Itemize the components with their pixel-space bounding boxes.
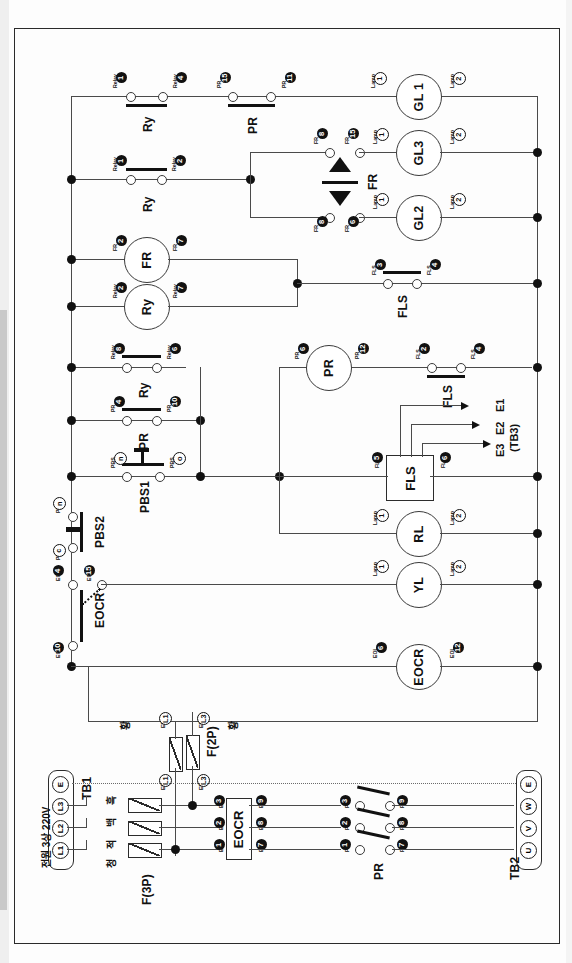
ry-coil-lead-in bbox=[71, 306, 125, 307]
tb2-terminal-v[interactable]: V bbox=[520, 820, 537, 837]
eocr-coil-return bbox=[440, 666, 538, 667]
terminal-number: 2 bbox=[116, 282, 127, 293]
fuse-2p-right bbox=[186, 735, 200, 770]
terminal-number: 12 bbox=[358, 343, 369, 354]
contact-terminal bbox=[325, 148, 335, 158]
terminal-number: 15 bbox=[348, 128, 359, 139]
fuse-3p-label: F(3P) bbox=[140, 874, 154, 905]
seal-in-tie-vertical bbox=[200, 367, 201, 480]
fuse-2p-label: F(2P) bbox=[205, 726, 219, 757]
fr-flicker-label: FR bbox=[366, 174, 380, 190]
rl-branch-vertical bbox=[279, 476, 280, 534]
terminal-number: 2 bbox=[175, 155, 186, 166]
electrode-label-e3: E3 bbox=[494, 444, 506, 457]
ctrl-feed-left-top bbox=[175, 721, 176, 739]
control-return-right bbox=[537, 666, 538, 722]
contact-device-label: PR bbox=[246, 117, 260, 134]
junction-dot bbox=[67, 302, 76, 311]
device-fls-box: FLS bbox=[386, 455, 434, 501]
tb1-terminal-e[interactable]: E bbox=[52, 776, 69, 793]
electrode-e2-arrow bbox=[472, 421, 480, 429]
junction-dot bbox=[533, 363, 542, 372]
scan-edge-left-dark bbox=[0, 310, 7, 910]
tb1-terminal-l1[interactable]: L1 bbox=[52, 842, 69, 859]
tb2-terminal-u[interactable]: U bbox=[520, 842, 537, 859]
electrode-e1-lead bbox=[400, 405, 462, 406]
junction-dot bbox=[67, 416, 76, 425]
terminal-number: 6 bbox=[298, 343, 309, 354]
contact-terminal bbox=[158, 92, 168, 102]
terminal-number: 4 bbox=[176, 72, 187, 83]
phase2-wire bbox=[159, 827, 219, 828]
coil-caption: FR bbox=[112, 244, 118, 251]
terminal-number: 1 bbox=[376, 509, 389, 522]
contact-terminal bbox=[155, 472, 165, 482]
contact-terminal bbox=[228, 92, 238, 102]
terminal-number: 5 bbox=[372, 452, 383, 463]
wire-color-k3: 적 bbox=[103, 840, 118, 849]
contact-terminal bbox=[126, 175, 136, 185]
contact-terminal bbox=[122, 363, 132, 373]
terminal-number: 4 bbox=[53, 565, 64, 576]
pbs2-label: PBS2 bbox=[93, 516, 107, 548]
pushbutton-stem bbox=[141, 450, 144, 465]
terminal-number: 1 bbox=[116, 155, 127, 166]
lamp-gl1: GL 1 bbox=[396, 74, 442, 120]
contact-terminal bbox=[456, 363, 466, 373]
contact-device-label: Ry bbox=[137, 382, 151, 398]
terminal-number: n bbox=[53, 497, 66, 510]
tb1-terminal-l3[interactable]: L3 bbox=[52, 798, 69, 815]
phase3-wire bbox=[159, 849, 219, 850]
terminal-number: 1 bbox=[376, 193, 389, 206]
eocr-coil-lead-in bbox=[71, 666, 396, 667]
terminal-number: 3 bbox=[340, 795, 351, 806]
contact-blade bbox=[122, 355, 161, 358]
contact-caption: FR bbox=[344, 137, 350, 144]
terminal-number: 6 bbox=[170, 343, 181, 354]
scan-edge-right bbox=[566, 0, 572, 963]
terminal-number: 15 bbox=[84, 565, 95, 576]
wire-color-k4: 청 bbox=[103, 859, 118, 868]
terminal-number: 2 bbox=[453, 509, 466, 522]
tb1-jump-c bbox=[86, 840, 87, 850]
junction-dot bbox=[533, 472, 542, 481]
contact-terminal bbox=[355, 845, 365, 855]
yl-lead-in bbox=[101, 584, 396, 585]
junction-dot bbox=[196, 472, 205, 481]
junction-dot bbox=[67, 472, 76, 481]
junction-dot bbox=[67, 175, 76, 184]
tb1-terminal-l2[interactable]: L2 bbox=[52, 820, 69, 837]
electrode-e1-vertical bbox=[400, 405, 401, 457]
coil-caption: FR bbox=[172, 244, 178, 251]
junction-dot bbox=[67, 363, 76, 372]
tb2-terminal-w[interactable]: W bbox=[520, 798, 537, 815]
eocr-contact-label: EOCR bbox=[93, 593, 107, 628]
coil-eocr: EOCR bbox=[396, 644, 442, 690]
tb2-terminal-e[interactable]: E bbox=[520, 776, 537, 793]
terminal-number: 6 bbox=[348, 216, 359, 227]
gl2-lead bbox=[359, 217, 396, 218]
terminal-number: 3 bbox=[375, 259, 386, 270]
junction-dot bbox=[171, 845, 180, 854]
ctrl-feed-left-bottom bbox=[175, 768, 176, 856]
gl3-lead bbox=[359, 152, 396, 153]
contact-terminal bbox=[383, 279, 393, 289]
fr-coil-lead-in bbox=[71, 259, 125, 260]
junction-dot bbox=[533, 529, 542, 538]
terminal-number: 2 bbox=[453, 193, 466, 206]
fr-flicker-arrow-down bbox=[329, 191, 351, 206]
terminal-number: 4 bbox=[114, 396, 125, 407]
pushbutton-head bbox=[66, 527, 82, 532]
contact-terminal bbox=[427, 363, 437, 373]
coil-caption: PR bbox=[294, 352, 300, 359]
lamp-gl3: GL3 bbox=[396, 130, 442, 176]
contact-blade bbox=[228, 104, 275, 107]
terminal-number: 1 bbox=[376, 128, 389, 141]
wire-color-label-left: 황 bbox=[117, 721, 132, 730]
terminal-number: 7 bbox=[176, 282, 187, 293]
contact-caption: PR bbox=[110, 405, 116, 412]
fr-flicker-bar bbox=[322, 181, 358, 184]
contact-caption: FR bbox=[313, 225, 319, 232]
terminal-number: L1 bbox=[159, 712, 172, 725]
fr-branch-vertical bbox=[250, 152, 251, 218]
